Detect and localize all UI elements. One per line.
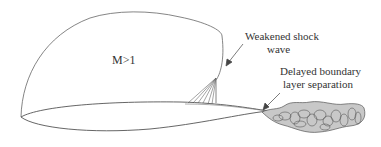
separation-label-line1: Delayed boundary bbox=[280, 65, 361, 77]
separation-label-line2: layer separation bbox=[283, 78, 353, 90]
airfoil-upper-surface bbox=[21, 102, 268, 117]
mach-region-label: M>1 bbox=[112, 54, 135, 66]
airfoil-lower-surface bbox=[21, 111, 268, 131]
compression-fan bbox=[188, 78, 216, 104]
separated-wake-region bbox=[262, 102, 365, 133]
separation-label-arrow bbox=[263, 93, 280, 110]
shock-label-line2: wave bbox=[267, 43, 290, 55]
shock-label-arrow bbox=[226, 44, 243, 66]
shock-label-line1: Weakened shock bbox=[245, 30, 319, 42]
